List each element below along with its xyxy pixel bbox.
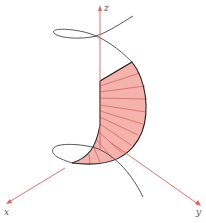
ruled-surface — [72, 62, 147, 164]
x-axis-label: x — [4, 207, 9, 217]
z-axis-label: z — [103, 3, 109, 13]
space-curve-upper — [53, 16, 133, 62]
figure-canvas: z x y — [0, 0, 206, 223]
y-axis-label: y — [195, 207, 202, 217]
y-axis — [110, 142, 201, 206]
x-axis — [6, 168, 65, 204]
